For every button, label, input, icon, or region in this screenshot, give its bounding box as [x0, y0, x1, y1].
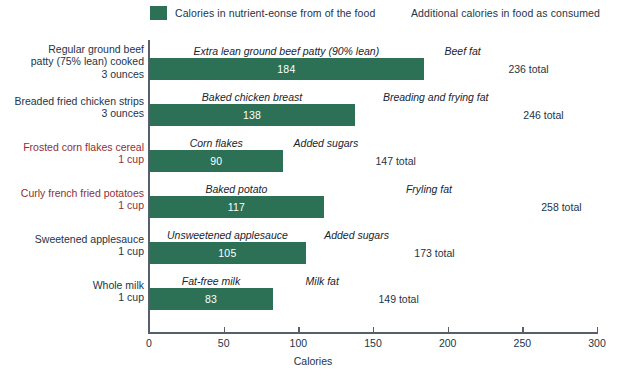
row-category-label-line: patty (75% lean) cooked	[0, 55, 144, 67]
x-axis-title: Calories	[0, 355, 626, 367]
bar-segment-additional-value: 68	[351, 247, 363, 259]
bar-row: Sweetened applesauce1 cupUnsweetened app…	[0, 222, 626, 268]
bar-segment-base-caption: Baked chicken breast	[149, 91, 355, 103]
bar-segment-base-caption: Baked potato	[149, 183, 324, 195]
plot-area: Regular ground beefpatty (75% lean) cook…	[0, 34, 626, 334]
row-category-label-line: 1 cup	[0, 199, 144, 211]
row-category-label-line: 1 cup	[0, 245, 144, 257]
row-category-label: Sweetened applesauce1 cup	[0, 233, 144, 258]
row-category-label-line: Sweetened applesauce	[0, 233, 144, 245]
bar-segment-additional-caption: Milk fat	[273, 275, 372, 287]
row-category-label-line: 3 ounces	[0, 107, 144, 119]
bar-segment-additional: Beef fat52	[424, 58, 502, 80]
x-axis-tick-label: 300	[588, 337, 606, 349]
x-axis-tick-label: 250	[514, 337, 532, 349]
legend-item-base-calories: Calories in nutrient-eonse from of the f…	[150, 6, 375, 20]
row-category-label-line: Curly french fried potatoes	[0, 187, 144, 199]
row-total-label: 246 total	[516, 104, 563, 126]
bar-segment-additional-caption: Beef fat	[424, 45, 502, 57]
row-total-label: 149 total	[372, 288, 419, 310]
stacked-bar: Extra lean ground beef patty (90% lean)1…	[149, 58, 501, 80]
bar-row: Regular ground beefpatty (75% lean) cook…	[0, 38, 626, 84]
calories-stacked-bar-chart: Calories in nutrient-eonse from of the f…	[0, 0, 626, 381]
bar-segment-base: Corn flakes90	[149, 150, 283, 172]
x-axis-tick-label: 200	[439, 337, 457, 349]
row-category-label-line: 3 ounces	[0, 67, 144, 79]
row-category-label: Whole milk1 cup	[0, 279, 144, 304]
row-category-label: Frosted corn flakes cereal1 cup	[0, 141, 144, 166]
bar-segment-base-caption: Extra lean ground beef patty (90% lean)	[149, 45, 424, 57]
bar-row: Frosted corn flakes cereal1 cupCorn flak…	[0, 130, 626, 176]
x-axis-tick-label: 0	[146, 337, 152, 349]
bar-segment-base-value: 105	[218, 247, 236, 259]
bar-segment-additional: Added sugars68	[306, 242, 408, 264]
legend-label-base-calories: Calories in nutrient-eonse from of the f…	[175, 7, 375, 19]
row-category-label: Breaded fried chicken strips3 ounces	[0, 95, 144, 120]
x-axis-tick	[149, 327, 150, 333]
bar-row: Curly french fried potatoes1 cupBaked po…	[0, 176, 626, 222]
bar-segment-base-caption: Fat-free milk	[149, 275, 273, 287]
x-axis-tick-label: 150	[364, 337, 382, 349]
stacked-bar: Fat-free milk83Milk fat66	[149, 288, 372, 310]
x-axis: 050100150200250300 Calories	[0, 332, 626, 381]
row-category-label-line: 1 cup	[0, 153, 144, 165]
bar-segment-additional-caption: Added sugars	[306, 229, 408, 241]
bar-segment-additional-caption: Breading and frying fat	[355, 91, 516, 103]
bar-segment-additional-value: 66	[316, 293, 328, 305]
bar-segment-additional-value: 57	[320, 155, 332, 167]
bar-segment-base-value: 117	[228, 201, 245, 213]
bar-segment-base-value: 83	[205, 293, 217, 305]
stacked-bar: Unsweetened applesauce105Added sugars68	[149, 242, 407, 264]
bar-segment-base-value: 184	[277, 63, 295, 75]
x-axis-tick	[448, 327, 449, 333]
bar-segment-additional: Fryling fat141	[324, 196, 535, 218]
x-axis-tick-label: 50	[218, 337, 230, 349]
row-category-label-line: Regular ground beef	[0, 43, 144, 55]
bar-segment-base-value: 90	[210, 155, 222, 167]
bar-segment-base-value: 138	[243, 109, 261, 121]
legend-item-additional-calories: Additional calories in food as consumed	[386, 6, 600, 20]
bar-segment-base-caption: Unsweetened applesauce	[149, 229, 306, 241]
legend-label-additional-calories: Additional calories in food as consumed	[411, 7, 600, 19]
bar-segment-additional: Breading and frying fat108	[355, 104, 516, 126]
x-axis-tick	[373, 327, 374, 333]
bar-segment-base: Fat-free milk83	[149, 288, 273, 310]
stacked-bar: Baked potato117Fryling fat141	[149, 196, 534, 218]
x-axis-tick	[298, 327, 299, 333]
bar-segment-additional: Added sugars57	[283, 150, 368, 172]
bar-segment-base: Baked potato117	[149, 196, 324, 218]
stacked-bar: Corn flakes90Added sugars57	[149, 150, 369, 172]
bar-segment-additional-caption: Added sugars	[283, 137, 368, 149]
legend-swatch-light-green	[386, 6, 403, 20]
stacked-bar: Baked chicken breast138Breading and fryi…	[149, 104, 516, 126]
chart-legend: Calories in nutrient-eonse from of the f…	[150, 6, 620, 26]
bar-segment-base-caption: Corn flakes	[149, 137, 283, 149]
bar-segment-additional: Milk fat66	[273, 288, 372, 310]
bar-segment-additional-value: 108	[427, 109, 445, 121]
x-axis-tick	[597, 327, 598, 333]
row-total-label: 258 total	[534, 196, 581, 218]
row-category-label: Curly french fried potatoes1 cup	[0, 187, 144, 212]
row-category-label-line: 1 cup	[0, 291, 144, 303]
row-total-label: 173 total	[407, 242, 454, 264]
bar-segment-additional-value: 52	[457, 63, 469, 75]
row-category-label-line: Frosted corn flakes cereal	[0, 141, 144, 153]
x-axis-tick	[522, 327, 523, 333]
x-axis-tick	[224, 327, 225, 333]
x-axis-tick-label: 100	[290, 337, 308, 349]
bar-segment-base: Extra lean ground beef patty (90% lean)1…	[149, 58, 424, 80]
bar-segment-base: Unsweetened applesauce105	[149, 242, 306, 264]
bar-row: Breaded fried chicken strips3 ouncesBake…	[0, 84, 626, 130]
row-category-label-line: Breaded fried chicken strips	[0, 95, 144, 107]
bar-segment-additional-value: 141	[420, 201, 438, 213]
row-total-label: 147 total	[369, 150, 416, 172]
row-category-label-line: Whole milk	[0, 279, 144, 291]
row-category-label: Regular ground beefpatty (75% lean) cook…	[0, 43, 144, 80]
row-total-label: 236 total	[501, 58, 548, 80]
bar-segment-base: Baked chicken breast138	[149, 104, 355, 126]
bar-segment-additional-caption: Fryling fat	[324, 183, 535, 195]
bar-row: Whole milk1 cupFat-free milk83Milk fat66…	[0, 268, 626, 314]
legend-swatch-dark-green	[150, 6, 167, 20]
